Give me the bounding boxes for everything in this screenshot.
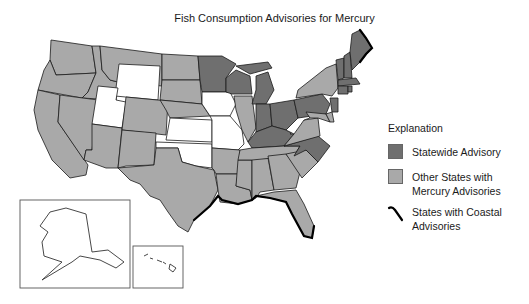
other-swatch-icon <box>388 169 403 184</box>
state-ar <box>212 148 240 174</box>
state-wa <box>50 40 96 75</box>
state-ri <box>348 86 352 92</box>
state-co <box>122 97 168 135</box>
state-wy <box>115 64 160 100</box>
state-ny <box>296 64 338 98</box>
state-ct <box>338 86 348 94</box>
state-mi <box>252 72 274 104</box>
legend-label-statewide: Statewide Advisory <box>412 145 529 159</box>
statewide-swatch-icon <box>388 144 403 159</box>
coastal-line-icon <box>386 204 406 224</box>
alaska-inset <box>20 200 130 288</box>
legend-label-other: Other States with Mercury Advisories <box>412 170 522 198</box>
legend-heading: Explanation <box>388 122 443 134</box>
legend-label-coastal: States with Coastal Advisories <box>412 205 522 233</box>
hawaii-inset <box>133 246 183 288</box>
state-mo <box>210 116 244 150</box>
state-nd <box>162 54 200 80</box>
state-wi <box>226 70 252 94</box>
state-ks <box>166 118 212 142</box>
state-nm <box>118 130 156 168</box>
state-nj <box>330 98 338 112</box>
